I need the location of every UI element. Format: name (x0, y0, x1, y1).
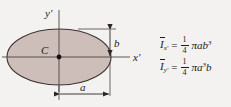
i-subscript-y: y' (164, 66, 169, 74)
overbar-y (160, 59, 165, 60)
equals-sign-x: = (171, 39, 177, 51)
i-symbol-y: Iy' (160, 60, 168, 74)
expression-tail-y: b (206, 61, 212, 73)
fraction-numerator-x: 1 (183, 36, 187, 44)
expression-body-y: πa (192, 61, 203, 73)
expression-exponent-x: 3 (208, 39, 212, 47)
overbar-x (160, 37, 165, 38)
expression-body-x: πab (192, 39, 209, 51)
equals-sign-y: = (171, 61, 177, 73)
centroid-label: C (41, 44, 49, 56)
fraction-denominator-y: 4 (183, 69, 187, 77)
dimension-b-label: b (114, 37, 120, 49)
dimension-a-label: a (80, 81, 86, 93)
centroid-point (57, 55, 62, 60)
fraction-one-quarter-x: 1 4 (181, 36, 189, 55)
i-subscript-x: x' (164, 44, 169, 52)
fraction-numerator-y: 1 (183, 58, 187, 66)
expression-y: πa3b (192, 61, 212, 73)
axis-x-label: x' (132, 51, 141, 63)
moment-of-inertia-equations: Ix' = 1 4 πab3 Iy' = 1 4 πa3b (160, 34, 231, 78)
i-symbol-x: Ix' (160, 38, 168, 52)
equation-ix: Ix' = 1 4 πab3 (160, 34, 231, 56)
ellipse-centroid-diagram: y' x' C b a (0, 0, 160, 107)
fraction-one-quarter-y: 1 4 (181, 58, 189, 77)
equation-iy: Iy' = 1 4 πa3b (160, 56, 231, 78)
axis-y-label: y' (44, 7, 53, 19)
fraction-denominator-x: 4 (183, 47, 187, 55)
expression-x: πab3 (192, 39, 212, 51)
